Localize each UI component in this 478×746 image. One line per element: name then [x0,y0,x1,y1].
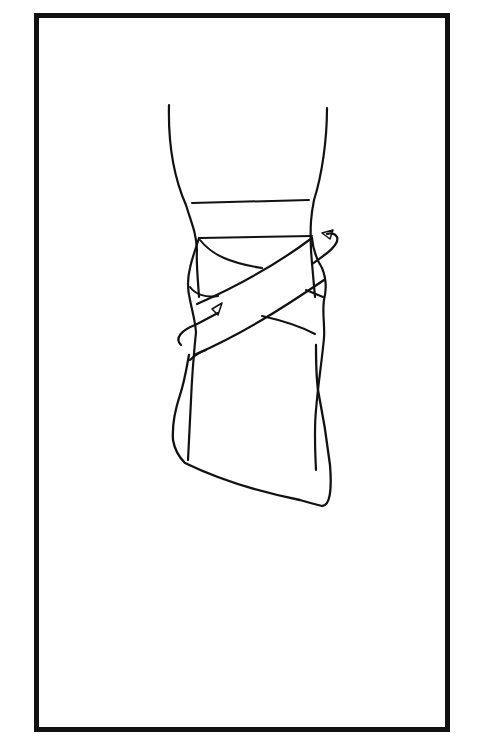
upper-direction-arrow [312,230,337,264]
foot-outline [173,345,331,506]
circular-anchor-band [192,200,312,238]
figure-frame [37,16,448,730]
figure-eight-crossing-strap [188,238,326,470]
lower-direction-arrow [178,303,222,360]
ankle-bandage-figure [0,0,478,746]
